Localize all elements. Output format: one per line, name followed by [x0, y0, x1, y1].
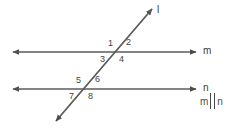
diagram-canvas [0, 0, 250, 130]
geometry-diagram: l m n 1 2 3 4 5 6 7 8 m n [0, 0, 250, 130]
line-label-l: l [157, 5, 159, 15]
angle-label-4: 4 [119, 55, 124, 64]
angle-label-6: 6 [95, 75, 100, 84]
line-label-m: m [203, 46, 211, 56]
parallel-bar-icon [210, 93, 211, 109]
angle-label-2: 2 [126, 38, 131, 47]
angle-label-5: 5 [76, 76, 81, 85]
parallel-right-line: n [217, 96, 223, 107]
parallel-relation-note: m n [200, 92, 223, 110]
parallel-left-line: m [200, 96, 208, 107]
angle-label-8: 8 [88, 92, 93, 101]
angle-label-1: 1 [108, 39, 113, 48]
parallel-bar-icon [214, 93, 215, 109]
angle-label-3: 3 [100, 55, 105, 64]
line-l-transversal [56, 9, 152, 121]
angle-label-7: 7 [69, 92, 74, 101]
